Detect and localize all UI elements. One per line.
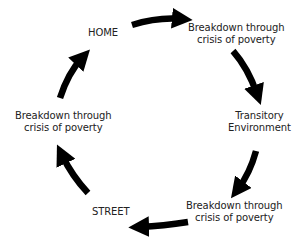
node-label-line: Transitory [228, 110, 291, 122]
node-label-line: crisis of poverty [186, 212, 283, 224]
node-home: HOME [88, 27, 118, 39]
arrow-breakdown-2-to-street [140, 222, 188, 227]
arrow-breakdown-3-to-home [60, 58, 82, 98]
node-transitory: Transitory Environment [228, 110, 291, 134]
node-label-line: Breakdown through [188, 22, 285, 34]
node-label-line: Environment [228, 122, 291, 134]
node-label-line: crisis of poverty [188, 34, 285, 46]
node-label-line: Breakdown through [15, 110, 112, 122]
node-breakdown-3: Breakdown through crisis of poverty [15, 110, 112, 134]
node-label-line: Breakdown through [186, 200, 283, 212]
node-breakdown-2: Breakdown through crisis of poverty [186, 200, 283, 224]
node-breakdown-1: Breakdown through crisis of poverty [188, 22, 285, 46]
arrow-home-to-breakdown-1 [132, 19, 181, 25]
arrow-street-to-breakdown-3 [62, 155, 88, 193]
node-label-line: crisis of poverty [15, 122, 112, 134]
node-label-line: STREET [92, 206, 130, 218]
node-street: STREET [92, 206, 130, 218]
node-label-line: HOME [88, 27, 118, 39]
arrow-breakdown-1-to-transitory [233, 51, 257, 94]
arrow-transitory-to-breakdown-2 [238, 151, 256, 189]
